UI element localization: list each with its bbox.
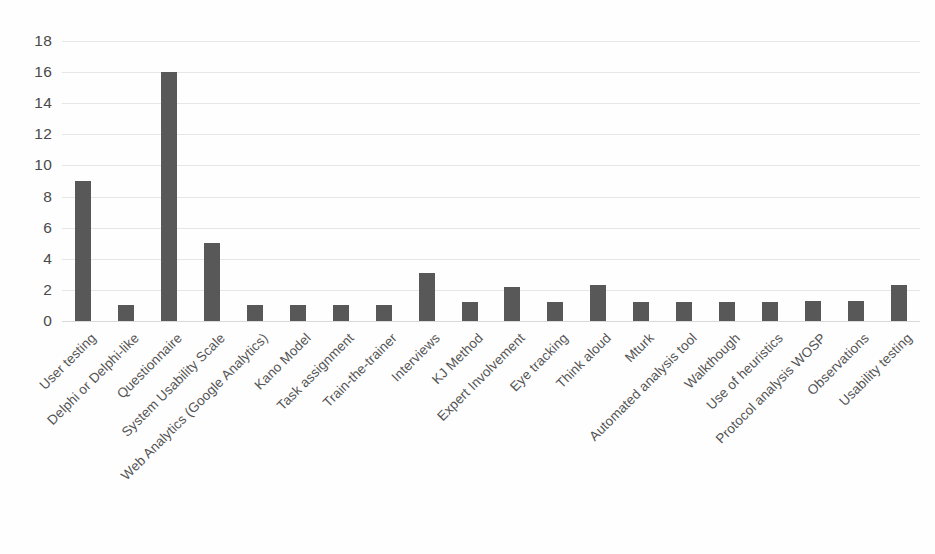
bar [333,305,349,321]
y-axis-tick-label: 18 [12,33,52,49]
gridline [62,197,920,198]
bar [676,302,692,321]
bar [247,305,263,321]
x-axis-tick-label: Task assignment [275,331,357,413]
axis-baseline [62,321,920,322]
plot-area [62,41,920,321]
bar-chart: 181614121086420 User testingDelphi or De… [0,0,935,554]
bar [462,302,478,321]
gridline [62,290,920,291]
bar [75,181,91,321]
gridline [62,259,920,260]
gridline [62,72,920,73]
bar [891,285,907,321]
gridline [62,165,920,166]
gridline [62,134,920,135]
y-axis-tick-label: 4 [12,251,52,267]
gridline [62,228,920,229]
bar [376,305,392,321]
bar [762,302,778,321]
y-axis-tick-label: 8 [12,189,52,205]
bar [504,287,520,321]
y-axis-tick-label: 16 [12,64,52,80]
y-axis: 181614121086420 [8,41,52,321]
gridline [62,103,920,104]
bar [719,302,735,321]
bar [419,273,435,321]
y-axis-tick-label: 12 [12,126,52,142]
bar [590,285,606,321]
y-axis-tick-label: 0 [12,313,52,329]
y-axis-tick-label: 2 [12,282,52,298]
y-axis-tick-label: 14 [12,95,52,111]
bar [805,301,821,321]
bar [848,301,864,321]
bar [118,305,134,321]
bar [547,302,563,321]
y-axis-tick-label: 6 [12,220,52,236]
x-axis-labels: User testingDelphi or Delphi-likeQuestio… [62,325,935,525]
y-axis-tick-label: 10 [12,157,52,173]
bar [161,72,177,321]
x-axis-tick-label: Mturk [623,331,657,365]
x-axis-tick-label: Use of heuristics [704,331,785,412]
bar [633,302,649,321]
gridline [62,41,920,42]
bar [290,305,306,321]
bar [204,243,220,321]
